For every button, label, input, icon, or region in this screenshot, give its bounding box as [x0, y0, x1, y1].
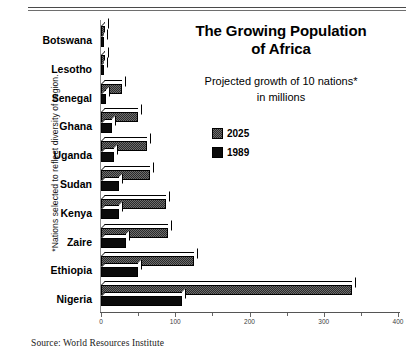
bar-botswana-1989	[101, 37, 104, 47]
bar-front-face	[101, 267, 138, 277]
chart-title: The Growing Population of Africa	[150, 22, 412, 59]
bar-ethiopia-1989	[101, 267, 138, 277]
bar-side-face	[138, 259, 142, 273]
axis-tick-label-100: 100	[170, 318, 181, 325]
axis-left-spine	[100, 20, 101, 312]
bar-side-face	[112, 115, 116, 129]
legend-swatch-2025	[212, 128, 223, 139]
bar-side-face	[352, 277, 356, 291]
axis-tick-100	[175, 313, 176, 317]
axis-tick-label-400: 400	[393, 318, 404, 325]
chart-legend: 20251989	[212, 126, 249, 164]
chart-title-line1: The Growing Population	[150, 22, 412, 40]
chart-subtitle-line2: in millions	[150, 89, 412, 106]
chart-title-line2: of Africa	[150, 40, 412, 58]
legend-item-2025[interactable]: 2025	[212, 126, 249, 141]
bar-side-face	[138, 104, 142, 118]
bar-nigeria-1989	[101, 296, 182, 306]
bar-front-face	[101, 296, 182, 306]
bar-front-face	[101, 181, 119, 191]
axis-tick-label-300: 300	[318, 318, 329, 325]
chart-subtitle: Projected growth of 10 nations* in milli…	[150, 73, 412, 106]
bar-side-face	[122, 76, 126, 90]
bar-side-face	[119, 201, 123, 215]
bar-side-face	[150, 162, 154, 176]
legend-label-1989: 1989	[227, 148, 249, 158]
axis-tick-label-200: 200	[244, 318, 255, 325]
bar-side-face	[168, 220, 172, 234]
bar-front-face	[101, 123, 112, 133]
bar-side-face	[126, 230, 130, 244]
legend-item-1989[interactable]: 1989	[212, 145, 249, 160]
bar-sudan-1989	[101, 181, 119, 191]
bar-zaire-1989	[101, 238, 126, 248]
bar-front-face	[101, 152, 114, 162]
axis-minor-tick-50	[138, 313, 139, 316]
bar-front-face	[101, 37, 104, 47]
axis-minor-tick-350	[361, 313, 362, 316]
bar-side-face	[194, 248, 198, 262]
bar-lesotho-1989	[101, 65, 104, 75]
divider-line-2	[28, 10, 406, 11]
divider-line-1	[28, 7, 406, 8]
bar-side-face	[106, 86, 110, 100]
legend-label-2025: 2025	[227, 129, 249, 139]
axis-tick-200	[250, 313, 251, 317]
bar-ghana-1989	[101, 123, 112, 133]
top-divider	[28, 7, 406, 11]
bar-side-face	[104, 57, 108, 71]
title-block: The Growing Population of Africa Project…	[150, 22, 412, 106]
source-caption: Source: World Resources Institute	[31, 338, 164, 348]
bar-side-face	[182, 288, 186, 302]
axis-minor-tick-250	[287, 313, 288, 316]
axis-minor-tick-150	[212, 313, 213, 316]
bar-side-face	[147, 133, 151, 147]
bar-senegal-1989	[101, 94, 106, 104]
bar-uganda-1989	[101, 152, 114, 162]
chart-subtitle-line1: Projected growth of 10 nations*	[150, 73, 412, 90]
bar-front-face	[101, 209, 119, 219]
axis-tick-0	[101, 313, 102, 317]
legend-swatch-1989	[212, 147, 223, 158]
axis-tick-300	[324, 313, 325, 317]
bar-side-face	[166, 191, 170, 205]
bar-front-face	[101, 94, 106, 104]
chart-page: *Nations selected to reflect diversity o…	[0, 0, 416, 355]
bar-front-face	[101, 238, 126, 248]
bar-kenya-1989	[101, 209, 119, 219]
axis-tick-label-0: 0	[99, 318, 103, 325]
axis-tick-400	[398, 313, 399, 317]
bar-front-face	[101, 65, 104, 75]
